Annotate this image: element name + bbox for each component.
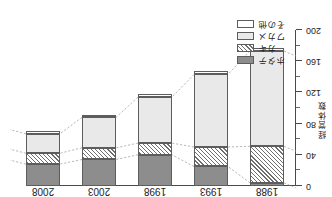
y-axis-title-char: 数: [316, 101, 328, 111]
connector-line: [10, 130, 26, 134]
bar-column: [26, 131, 60, 186]
y-tick-minor: [296, 169, 300, 170]
legend-swatch-light: [237, 33, 254, 41]
bar-segment-wakame: [82, 117, 116, 147]
legend-swatch-white: [237, 21, 254, 29]
connector-line: [60, 159, 82, 164]
connector-line: [10, 149, 26, 153]
legend-item: その他: [237, 19, 305, 30]
bar-segment-wakame: [194, 74, 228, 147]
bar-segment-wakame: [138, 97, 172, 143]
bar-segment-other: [138, 94, 172, 97]
connector-line: [228, 167, 250, 183]
bar-segment-hotate: [26, 164, 60, 186]
legend-item: ホタテ: [237, 55, 305, 66]
connector-line: [116, 97, 138, 117]
legend-item-label: ホタテ: [258, 56, 285, 65]
bar-segment-other: [26, 131, 60, 133]
bar-segment-kaki: [138, 143, 172, 155]
y-axis-title-char: 営: [316, 120, 328, 130]
bar-segment-other: [82, 115, 116, 117]
x-axis-category-label: 1998: [133, 186, 177, 197]
connector-line: [172, 74, 194, 97]
connector-line: [172, 143, 194, 147]
y-tick-mark: [296, 185, 302, 186]
y-tick-label: 120: [306, 88, 328, 97]
bar-segment-kaki: [250, 146, 284, 183]
plot-area: 04080120160200 経営体数 年 198819931998200320…: [0, 0, 332, 197]
y-tick-minor: [296, 138, 300, 139]
connector-line: [60, 117, 82, 133]
legend-swatch-hatch: [237, 45, 254, 53]
bar-column: [194, 71, 228, 186]
y-axis-title: 経営体数: [316, 101, 328, 139]
bar-segment-kaki: [26, 153, 60, 164]
y-tick-mark: [296, 123, 302, 124]
bar-segment-hotate: [138, 155, 172, 186]
bar-column: [250, 48, 284, 186]
chart-legend: ホタテカキワカメその他: [237, 18, 305, 66]
bar-segment-hotate: [82, 159, 116, 186]
y-tick-label: 40: [306, 151, 328, 160]
legend-item: カキ: [237, 43, 305, 54]
bar-segment-hotate: [194, 167, 228, 187]
y-axis-title-char: 経: [316, 130, 328, 140]
bar-segment-hotate: [250, 183, 284, 186]
connector-line: [116, 155, 138, 160]
bar-segment-kaki: [194, 147, 228, 167]
x-axis-category-label: 2003: [77, 186, 121, 197]
y-tick-label: 0: [306, 182, 328, 191]
legend-swatch-dark: [237, 57, 254, 65]
connector-line: [116, 143, 138, 148]
x-axis-category-label: 1988: [245, 186, 289, 197]
y-tick-label: 160: [306, 57, 328, 66]
x-axis-category-label: 2008: [21, 186, 65, 197]
y-tick-minor: [296, 107, 300, 108]
y-tick-label: 200: [306, 26, 328, 35]
bar-segment-wakame: [26, 134, 60, 154]
connector-line: [10, 160, 26, 164]
x-axis-category-label: 1993: [189, 186, 233, 197]
bar-column: [138, 94, 172, 186]
y-tick-minor: [296, 76, 300, 77]
connector-line: [172, 155, 194, 167]
legend-item-label: ワカメ: [258, 32, 285, 41]
legend-item-label: カキ: [258, 44, 276, 53]
connector-line: [60, 148, 82, 153]
bar-column: [82, 115, 116, 186]
connector-line: [228, 146, 250, 147]
legend-item-label: その他: [258, 20, 285, 29]
y-axis-title-char: 体: [316, 111, 328, 121]
y-tick-mark: [296, 154, 302, 155]
bar-segment-kaki: [82, 148, 116, 160]
chart-figure: 04080120160200 経営体数 年 198819931998200320…: [0, 0, 332, 197]
legend-item: ワカメ: [237, 31, 305, 42]
y-tick-mark: [296, 91, 302, 92]
bar-segment-other: [194, 71, 228, 75]
